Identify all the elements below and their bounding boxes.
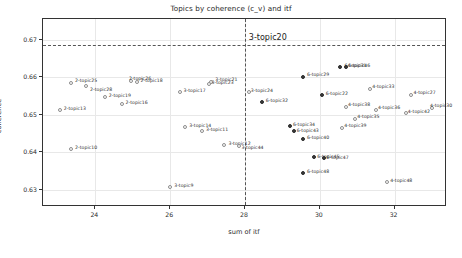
scatter-point-label: 2-topic13 (64, 106, 86, 111)
y-tick-label: 0.67 (14, 35, 37, 42)
x-tick-label: 28 (240, 211, 248, 218)
scatter-point-label: 2-topic28 (90, 87, 112, 92)
gridline-horizontal (43, 115, 445, 116)
scatter-point-label: 4-topic35 (357, 114, 379, 119)
y-tick-mark (39, 114, 42, 115)
scatter-point[interactable] (338, 65, 342, 69)
scatter-point[interactable] (301, 75, 305, 79)
reference-line-horizontal (43, 45, 445, 46)
plot-area: 3-topic202-topic252-topic282-topic182-to… (42, 18, 446, 206)
scatter-point-label: 3-topic24 (251, 88, 273, 93)
gridline-vertical (95, 19, 96, 205)
scatter-point[interactable] (84, 84, 88, 88)
x-axis-label: sum of itf (42, 228, 446, 236)
scatter-point[interactable] (222, 143, 226, 147)
gridline-horizontal (43, 152, 445, 153)
scatter-point[interactable] (320, 93, 324, 97)
scatter-point-label: 3-topic9 (174, 183, 193, 188)
scatter-point[interactable] (178, 90, 182, 94)
scatter-point-label: 6-topic34 (293, 122, 315, 127)
x-tick-mark (394, 206, 395, 209)
scatter-point-label: 6-topic22 (326, 91, 348, 96)
chart-title: Topics by coherence (c_v) and itf (0, 4, 462, 13)
scatter-point[interactable] (301, 137, 305, 141)
scatter-point[interactable] (292, 129, 296, 133)
scatter-point-label: 2-topic19 (109, 93, 131, 98)
gridline-vertical (170, 19, 171, 205)
scatter-point[interactable] (200, 129, 204, 133)
scatter-point-label: 4-topic27 (413, 90, 435, 95)
scatter-point-label: 6-topic46 (348, 63, 370, 68)
scatter-point-label: 6-topic29 (307, 72, 329, 77)
y-tick-mark (39, 76, 42, 77)
scatter-point-label: 3-topic44 (241, 145, 263, 150)
scatter-point-label: 4-topic42 (408, 109, 430, 114)
y-tick-mark (39, 39, 42, 40)
scatter-point-label: 2-topic25 (75, 78, 97, 83)
scatter-point-label: 6-topic48 (307, 169, 329, 174)
scatter-point-label: 3-topic23 (211, 80, 233, 85)
scatter-point[interactable] (103, 95, 107, 99)
y-tick-label: 0.63 (14, 186, 37, 193)
gridline-horizontal (43, 190, 445, 191)
x-tick-label: 30 (315, 211, 323, 218)
scatter-point-label: 6-topic32 (266, 98, 288, 103)
x-tick-mark (94, 206, 95, 209)
y-axis-label: coherence (0, 99, 3, 133)
chart-annotation: 3-topic20 (249, 33, 287, 42)
gridline-vertical (320, 19, 321, 205)
y-tick-mark (39, 189, 42, 190)
scatter-point[interactable] (312, 155, 316, 159)
x-tick-label: 24 (90, 211, 98, 218)
gridline-horizontal (43, 77, 445, 78)
y-tick-label: 0.66 (14, 73, 37, 80)
scatter-point[interactable] (288, 124, 292, 128)
scatter-point[interactable] (183, 125, 187, 129)
scatter-point-label: 4-topic30 (430, 103, 452, 108)
scatter-point-label: 2-topic10 (75, 145, 97, 150)
y-tick-mark (39, 151, 42, 152)
scatter-point[interactable] (120, 102, 124, 106)
scatter-point-label: 6-topic40 (307, 135, 329, 140)
scatter-point[interactable] (69, 147, 73, 151)
x-tick-mark (244, 206, 245, 209)
scatter-point-label: 4-topic36 (378, 105, 400, 110)
scatter-point-label: 3-topic11 (206, 127, 228, 132)
reference-line-vertical (245, 19, 246, 205)
scatter-point[interactable] (168, 185, 172, 189)
scatter-point-label: 4-topic33 (372, 84, 394, 89)
scatter-point-label: 2-topic16 (126, 100, 148, 105)
y-tick-label: 0.65 (14, 110, 37, 117)
x-tick-mark (169, 206, 170, 209)
gridline-horizontal (43, 40, 445, 41)
scatter-point-label: 6-topic47 (327, 155, 349, 160)
x-tick-label: 26 (165, 211, 173, 218)
x-tick-label: 32 (390, 211, 398, 218)
scatter-point-label: 4-topic39 (344, 123, 366, 128)
scatter-point[interactable] (322, 156, 326, 160)
chart-figure: Topics by coherence (c_v) and itf 3-topi… (0, 0, 462, 258)
scatter-point-label: 3-topic17 (184, 88, 206, 93)
scatter-point[interactable] (385, 180, 389, 184)
scatter-point[interactable] (301, 171, 305, 175)
scatter-point-label: 4-topic48 (390, 178, 412, 183)
scatter-point[interactable] (260, 100, 264, 104)
scatter-point-label: 6-topic43 (297, 128, 319, 133)
y-tick-label: 0.64 (14, 148, 37, 155)
scatter-point-label: 4-topic38 (348, 102, 370, 107)
scatter-point[interactable] (69, 81, 73, 85)
scatter-point[interactable] (58, 108, 62, 112)
scatter-point-label: 2-topic26 (129, 76, 151, 81)
x-tick-mark (319, 206, 320, 209)
